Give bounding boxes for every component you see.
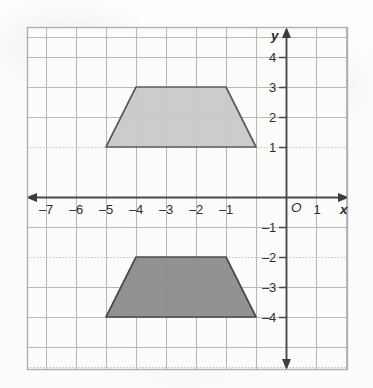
- y-tick-label--3: –3: [262, 281, 276, 294]
- x-tick-label-1: 1: [313, 203, 320, 216]
- plot-background: [27, 27, 348, 370]
- y-tick-label-1: 1: [269, 141, 276, 154]
- y-tick-label--2: –2: [262, 251, 276, 264]
- y-tick-label--4: –4: [262, 311, 276, 324]
- y-tick-label-2: 2: [269, 111, 276, 124]
- y-tick-label--1: –1: [262, 221, 276, 234]
- y-axis-label: y: [271, 29, 279, 43]
- plot-canvas: [0, 0, 373, 388]
- x-tick-label--6: –6: [69, 203, 83, 216]
- x-tick-label--5: –5: [99, 203, 113, 216]
- x-axis-label: x: [340, 203, 348, 217]
- x-tick-label--2: –2: [189, 203, 203, 216]
- x-tick-label--1: –1: [219, 203, 233, 216]
- y-tick-label-3: 3: [269, 81, 276, 94]
- x-tick-label--4: –4: [129, 203, 143, 216]
- x-tick-label--7: –7: [39, 203, 53, 216]
- origin-label: O: [291, 201, 302, 215]
- coordinate-plane-figure: –7 –6 –5 –4 –3 –2 –1 1 4 3 2 1 –1 –2 –3 …: [0, 0, 373, 388]
- y-tick-label-4: 4: [269, 51, 276, 64]
- x-tick-label--3: –3: [159, 203, 173, 216]
